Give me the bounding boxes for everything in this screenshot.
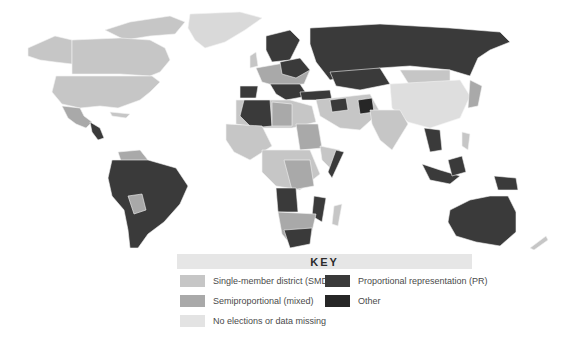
legend-swatch-other xyxy=(325,295,350,307)
region-libya xyxy=(272,102,292,126)
legend-swatch-none xyxy=(180,315,205,327)
region-indochina xyxy=(424,128,442,152)
legend-item-smd: Single-member district (SMD) xyxy=(180,274,331,288)
region-uk xyxy=(250,52,258,68)
region-japan xyxy=(468,80,482,108)
region-madagascar xyxy=(332,204,342,226)
region-angola xyxy=(276,188,298,212)
region-india xyxy=(370,110,408,150)
legend-item-semi: Semiproportional (mixed) xyxy=(180,294,314,308)
region-australia xyxy=(448,196,516,246)
world-map xyxy=(0,0,583,250)
legend-label-other: Other xyxy=(358,296,381,306)
region-alaska xyxy=(28,36,72,64)
region-mexico xyxy=(62,106,92,128)
region-philippines xyxy=(462,132,470,150)
legend-label-pr: Proportional representation (PR) xyxy=(358,276,488,286)
region-south-africa xyxy=(284,228,312,248)
region-iberia xyxy=(240,86,258,98)
legend-item-other: Other xyxy=(325,294,381,308)
key-header: KEY xyxy=(177,254,472,269)
legend-item-pr: Proportional representation (PR) xyxy=(325,274,488,288)
legend-swatch-pr xyxy=(325,275,350,287)
key-title: KEY xyxy=(310,256,339,268)
region-canada-arctic xyxy=(105,16,185,40)
region-kazakhstan xyxy=(330,68,390,90)
region-iraq xyxy=(330,98,348,112)
legend-label-semi: Semiproportional (mixed) xyxy=(213,296,314,306)
region-cuba xyxy=(110,112,130,118)
region-usa xyxy=(52,76,160,108)
region-scandinavia xyxy=(266,30,300,62)
region-sudan xyxy=(296,124,322,150)
region-new-zealand xyxy=(530,236,548,250)
legend-item-none: No elections or data missing xyxy=(180,314,326,328)
region-greenland xyxy=(188,12,262,48)
legend-label-none: No elections or data missing xyxy=(213,316,326,326)
region-south-america xyxy=(108,160,188,248)
legend-swatch-smd xyxy=(180,275,205,287)
legend-swatch-semi xyxy=(180,295,205,307)
legend-label-smd: Single-member district (SMD) xyxy=(213,276,331,286)
region-new-guinea xyxy=(494,176,518,190)
region-central-america xyxy=(90,122,104,140)
region-canada xyxy=(72,38,170,76)
